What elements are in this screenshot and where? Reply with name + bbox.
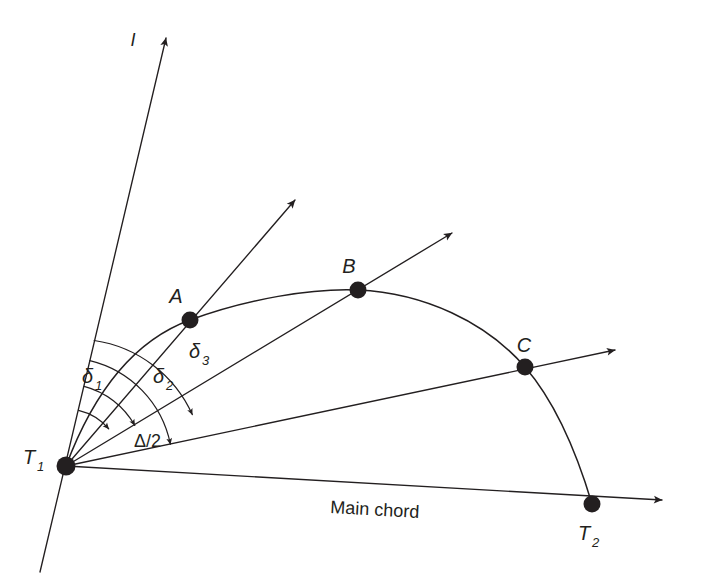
label-t1-subscript: 1 (37, 459, 44, 474)
tangent-line-I (40, 38, 166, 572)
angle-arc-delta-3 (94, 341, 192, 415)
label-tangent-point-1: T 1 (23, 446, 44, 474)
label-delta3-subscript: 3 (202, 353, 210, 368)
label-main-chord: Main chord (330, 497, 420, 522)
node-dot-a (182, 312, 199, 329)
label-delta3-symbol: δ (189, 340, 201, 362)
node-dot-b (350, 282, 367, 299)
label-t2-subscript: 2 (591, 535, 600, 550)
ray-through-point-b (66, 233, 452, 466)
label-delta2-symbol: δ (153, 365, 165, 387)
label-t1-letter: T (23, 446, 37, 468)
label-point-c: C (517, 334, 532, 356)
label-point-a: A (168, 285, 182, 307)
curve-setting-out-figure: I A B C T 1 T 2 δ 1 δ 2 δ 3 Δ/2 (0, 0, 702, 586)
label-tangent-I: I (130, 30, 135, 50)
label-tangent-point-2: T 2 (578, 522, 600, 550)
ray-through-point-a (66, 200, 295, 466)
label-delta-2: δ 2 (153, 365, 174, 393)
label-t2-letter: T (578, 522, 592, 544)
label-point-b: B (342, 255, 355, 277)
label-half-delta: Δ/2 (134, 431, 161, 451)
label-delta1-subscript: 1 (95, 378, 102, 393)
node-dot-c (517, 359, 534, 376)
circular-curve-arc (66, 290, 592, 504)
main-chord-line (66, 466, 662, 500)
label-delta1-symbol: δ (82, 365, 94, 387)
node-dot-t1 (57, 457, 76, 476)
angle-arc-delta-2 (84, 386, 135, 425)
diagram-canvas: I A B C T 1 T 2 δ 1 δ 2 δ 3 Δ/2 (0, 0, 702, 586)
label-delta-3: δ 3 (189, 340, 210, 368)
node-dot-t2 (584, 496, 601, 513)
label-delta2-subscript: 2 (165, 378, 174, 393)
